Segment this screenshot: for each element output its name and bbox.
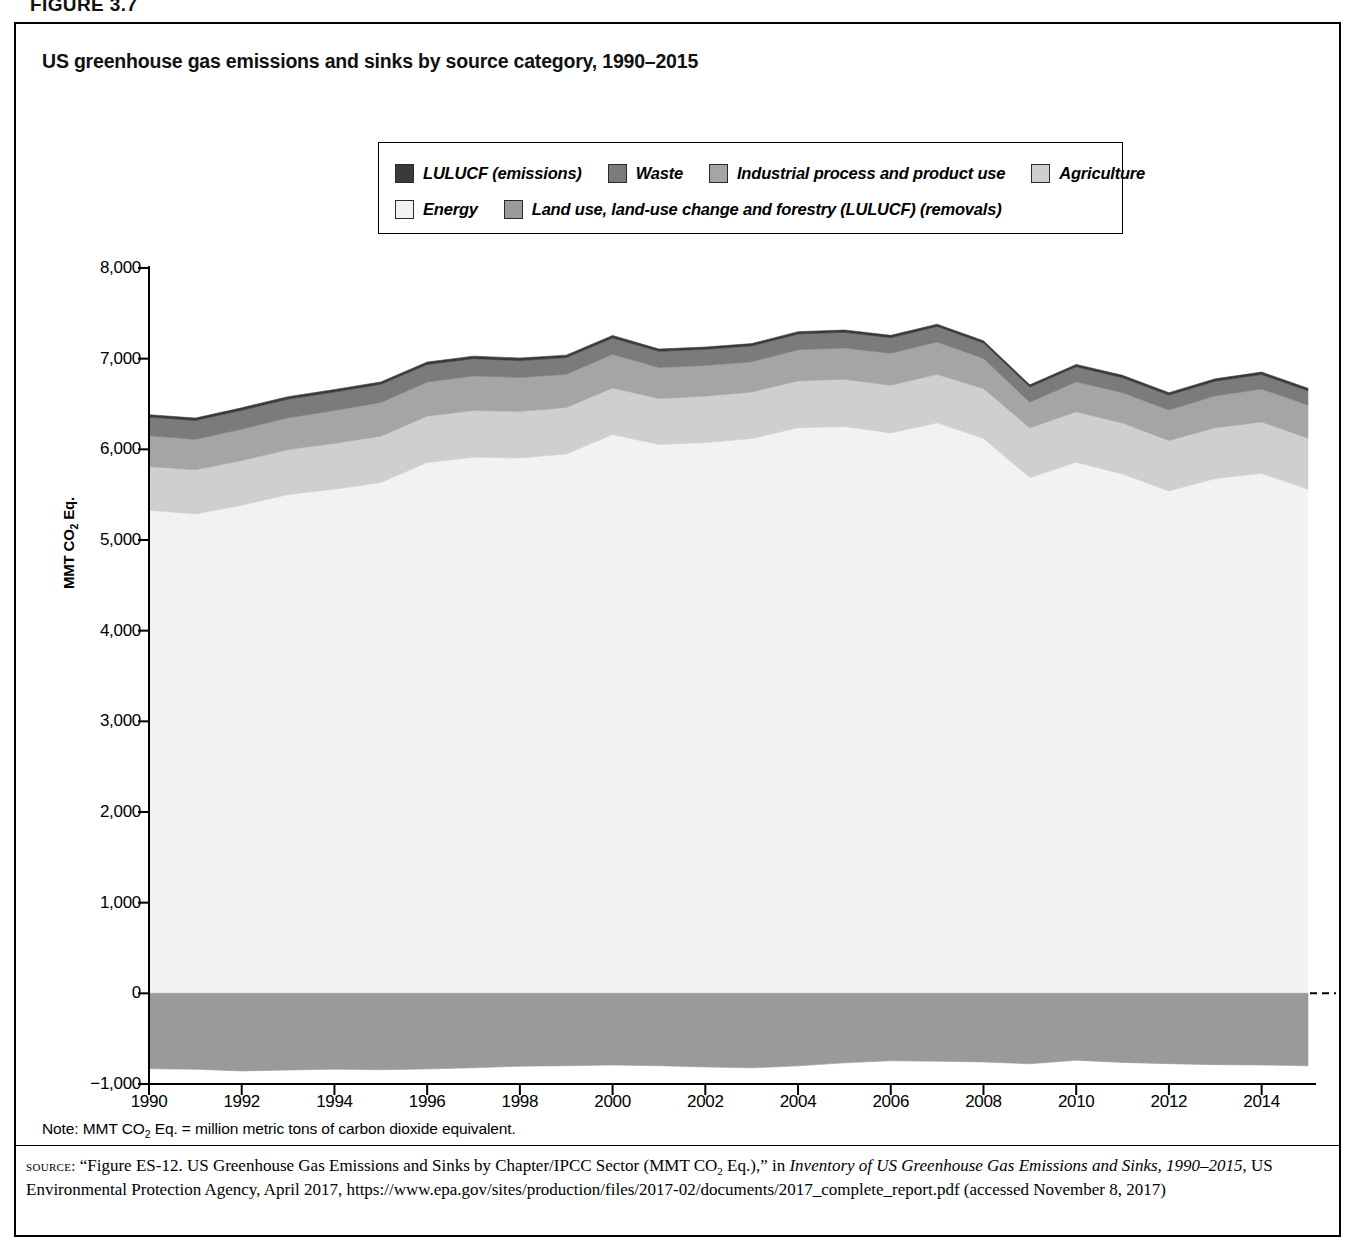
- area-series-0: [149, 423, 1308, 993]
- source-divider: [14, 1145, 1341, 1146]
- chart-note: Note: MMT CO2 Eq. = million metric tons …: [42, 1120, 516, 1140]
- source-citation: source: “Figure ES-12. US Greenhouse Gas…: [26, 1155, 1316, 1202]
- area-series-removals: [149, 993, 1308, 1071]
- stacked-area-chart: [16, 24, 1343, 1239]
- figure-label: FIGURE 3.7: [30, 0, 137, 16]
- figure-frame: US greenhouse gas emissions and sinks by…: [14, 22, 1341, 1237]
- figure-page: FIGURE 3.7 US greenhouse gas emissions a…: [0, 0, 1363, 1255]
- source-label: source:: [26, 1158, 80, 1174]
- plot-area: MMT CO2 Eq. 8,0007,0006,0005,0004,0003,0…: [16, 24, 1343, 1239]
